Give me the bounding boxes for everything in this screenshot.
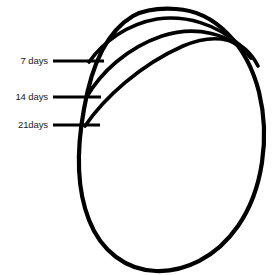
annotation-label-14days: 14 days [0,91,48,102]
diagram-canvas: 7 days 14 days 21days [0,0,272,275]
ovoid-diagram [0,0,272,275]
ovoid-outline [79,9,264,271]
annotation-label-7days: 7 days [0,55,48,66]
annotation-label-21days: 21days [0,119,48,130]
